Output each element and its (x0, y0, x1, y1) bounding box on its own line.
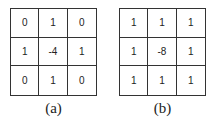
kernel-cell: 1 (148, 66, 176, 95)
kernel-caption-a: (a) (10, 100, 97, 117)
kernel-cell: 1 (177, 38, 205, 67)
kernel-cell: 1 (120, 66, 148, 95)
kernel-cell: 1 (120, 38, 148, 67)
kernel-cell-center: -4 (39, 38, 67, 67)
kernel-cell: 0 (11, 9, 39, 38)
kernel-grid-a: 0 1 0 1 -4 1 0 1 0 (10, 8, 97, 96)
kernel-cell: 1 (177, 66, 205, 95)
kernel-panel-b: 1 1 1 1 -8 1 1 1 1 (b) (119, 8, 207, 117)
kernel-cell-center: -8 (148, 38, 176, 67)
kernel-cell: 1 (120, 9, 148, 38)
kernel-cell: 1 (148, 9, 176, 38)
kernel-cell: 1 (39, 66, 67, 95)
kernel-cell: 0 (68, 9, 96, 38)
kernel-grid-b: 1 1 1 1 -8 1 1 1 1 (119, 8, 206, 96)
kernel-cell: 1 (68, 38, 96, 67)
kernel-panel-a: 0 1 0 1 -4 1 0 1 0 (a) (10, 8, 98, 117)
kernel-cell: 1 (39, 9, 67, 38)
kernel-cell: 1 (11, 38, 39, 67)
kernel-cell: 1 (177, 9, 205, 38)
kernel-cell: 0 (68, 66, 96, 95)
kernel-cell: 0 (11, 66, 39, 95)
kernel-caption-b: (b) (119, 100, 206, 117)
